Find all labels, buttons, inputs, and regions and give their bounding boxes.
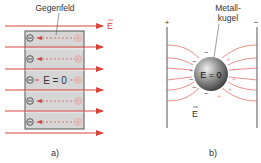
svg-text:−: −: [189, 76, 193, 83]
metall-label-2: kugel: [218, 13, 238, 23]
panel-b-label: b): [209, 148, 217, 158]
field-vector-label: E: [192, 109, 198, 119]
callout-line: [214, 24, 219, 57]
metall-label-1: Metall-: [215, 3, 241, 13]
panel-b: + − − − − − − − + + + +: [165, 3, 259, 158]
sphere-field-label: E = 0: [200, 70, 221, 80]
panel-a-label: a): [51, 148, 59, 158]
svg-text:−: −: [192, 58, 196, 65]
svg-text:+: +: [226, 56, 230, 63]
plate-right-sign: −: [254, 18, 259, 27]
svg-text:+: +: [232, 76, 236, 83]
svg-text:−: −: [189, 67, 193, 74]
diagram-canvas: E = 0 Gegenfeld E a) + −: [0, 0, 261, 163]
gegenfeld-label: Gegenfeld: [35, 3, 74, 13]
svg-text:−: −: [192, 84, 196, 91]
field-vector-label: E: [107, 21, 113, 31]
plate-left-sign: +: [165, 18, 170, 27]
svg-text:+: +: [232, 66, 236, 73]
svg-text:+: +: [217, 93, 221, 100]
svg-text:−: −: [204, 49, 208, 56]
svg-text:+: +: [228, 86, 232, 93]
inner-field-label: E = 0: [43, 75, 67, 86]
panel-a: E = 0 Gegenfeld E a): [5, 3, 113, 158]
svg-text:−: −: [204, 90, 208, 97]
